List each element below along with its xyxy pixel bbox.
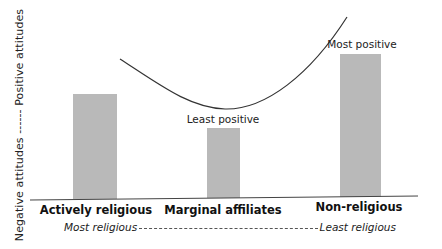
annotation-most-positive: Most positive <box>327 38 397 50</box>
scale-left-label: Most religious <box>64 221 137 233</box>
category-label-actively-religious: Actively religious <box>40 203 152 217</box>
scale-dashed-line <box>139 228 317 229</box>
y-axis-label: Negative attitudes ------ Positive attit… <box>13 9 26 241</box>
bar-actively-religious <box>73 94 117 199</box>
attitude-curve <box>120 17 347 109</box>
category-label-non-religious: Non-religious <box>316 200 403 214</box>
category-label-marginal-affiliates: Marginal affiliates <box>164 203 281 217</box>
annotation-least-positive: Least positive <box>187 113 260 125</box>
bar-marginal-affiliates <box>207 128 240 198</box>
bar-non-religious <box>340 54 381 197</box>
scale-right-label: Least religious <box>320 221 396 233</box>
religiosity-scale: Most religious Least religious <box>64 221 396 233</box>
